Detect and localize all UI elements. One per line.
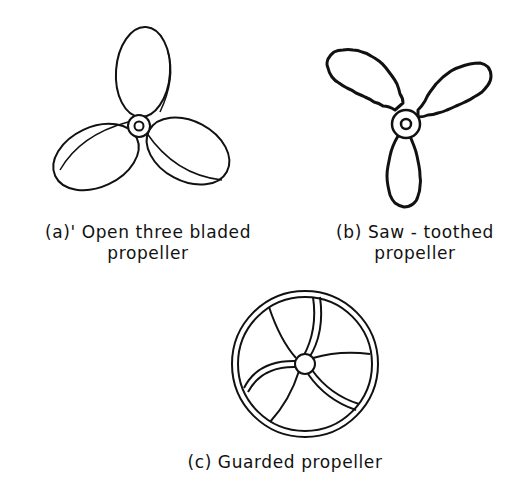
blade-lower-right xyxy=(135,104,241,198)
caption-saw-toothed-propeller: (b) Saw - toothed propeller xyxy=(300,222,528,264)
hub xyxy=(295,354,315,374)
blade-top xyxy=(269,297,321,358)
caption-line-1: (b) Saw - toothed xyxy=(300,222,528,243)
caption-open-three-bladed-propeller: (a)' Open three bladed propeller xyxy=(18,222,278,264)
caption-line-2: propeller xyxy=(18,243,278,264)
blade-top xyxy=(113,25,173,119)
caption-line-1: (a)' Open three bladed xyxy=(18,222,278,243)
blade-upper-right xyxy=(418,63,491,117)
caption-line-2: propeller xyxy=(300,243,528,264)
hub-bore xyxy=(401,119,411,129)
blade-upper-left xyxy=(327,50,403,111)
blade-bottom xyxy=(387,136,421,207)
saw-toothed-propeller xyxy=(327,50,491,208)
blade-left xyxy=(244,361,299,422)
caption-guarded-propeller: (c) Guarded propeller xyxy=(140,452,430,473)
caption-line-1: (c) Guarded propeller xyxy=(140,452,430,473)
guarded-propeller xyxy=(232,291,378,437)
open-three-bladed-propeller xyxy=(43,25,241,203)
hub xyxy=(128,115,150,137)
